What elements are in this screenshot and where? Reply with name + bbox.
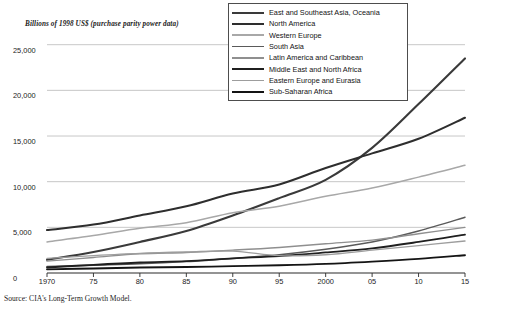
legend-item-0[interactable]: East and Southeast Asia, Oceania (232, 7, 403, 18)
legend-swatch-icon (232, 23, 264, 25)
y-tick-label: 15,000 (13, 137, 47, 146)
legend-item-2[interactable]: Western Europe (232, 30, 403, 41)
legend-item-label: Latin America and Caribbean (269, 53, 363, 62)
y-tick-label: 25,000 (13, 46, 47, 55)
x-tick-label: 05 (368, 277, 376, 286)
x-axis-ticks (47, 273, 465, 277)
legend-item-5[interactable]: Middle East and North Africa (232, 63, 403, 74)
chart-figure: Billions of 1998 US$ (purchase parity po… (0, 0, 506, 311)
x-tick-label: 80 (136, 277, 144, 286)
legend-item-7[interactable]: Sub-Saharan Africa (232, 86, 403, 97)
x-tick-label: 15 (461, 277, 469, 286)
series-line-5 (47, 235, 465, 268)
legend-item-4[interactable]: Latin America and Caribbean (232, 52, 403, 63)
legend-swatch-icon (232, 57, 264, 58)
y-tick-label: 10,000 (13, 183, 47, 192)
x-tick-label: 95 (275, 277, 283, 286)
x-tick-label: 2000 (317, 277, 333, 286)
x-tick-label: 1970 (39, 277, 55, 286)
legend-item-label: South Asia (269, 42, 304, 51)
legend-swatch-icon (232, 80, 264, 81)
legend-swatch-icon (232, 46, 264, 48)
legend-item-label: North America (269, 19, 315, 28)
legend-swatch-icon (232, 91, 264, 93)
series-line-1 (47, 118, 465, 230)
chart-legend: East and Southeast Asia, OceaniaNorth Am… (228, 3, 408, 101)
x-tick-label: 10 (414, 277, 422, 286)
legend-item-label: East and Southeast Asia, Oceania (269, 8, 380, 17)
y-axis-unit-caption: Billions of 1998 US$ (purchase parity po… (25, 20, 179, 28)
source-note: Source: CIA's Long-Term Growth Model. (4, 294, 132, 303)
legend-item-1[interactable]: North America (232, 18, 403, 29)
legend-swatch-icon (232, 34, 264, 36)
x-tick-label: 85 (182, 277, 190, 286)
x-tick-label: 75 (89, 277, 97, 286)
legend-item-label: Eastern Europe and Eurasia (269, 76, 361, 85)
legend-swatch-icon (232, 68, 264, 70)
y-tick-label: 5,000 (13, 228, 47, 237)
legend-item-label: Western Europe (269, 31, 322, 40)
x-tick-label: 90 (229, 277, 237, 286)
legend-item-label: Middle East and North Africa (269, 65, 361, 74)
legend-item-label: Sub-Saharan Africa (269, 87, 332, 96)
legend-item-6[interactable]: Eastern Europe and Eurasia (232, 75, 403, 86)
legend-item-3[interactable]: South Asia (232, 41, 403, 52)
legend-swatch-icon (232, 12, 264, 14)
series-line-2 (47, 165, 465, 242)
y-tick-label: 20,000 (13, 91, 47, 100)
